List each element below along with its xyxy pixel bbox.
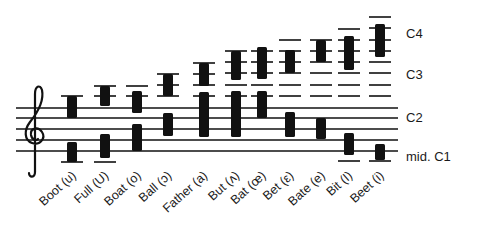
lower-range-bar <box>199 92 209 137</box>
lower-range-bar <box>231 91 241 137</box>
lower-range-bar <box>285 112 295 137</box>
vowel-pitch-diagram: C4C3C2mid. C1 Boot (u)Full (U)Boat (o)Ba… <box>0 0 477 247</box>
lower-range-bar <box>163 113 173 136</box>
lower-range-bar <box>132 124 142 151</box>
lower-range-bar <box>257 91 267 118</box>
pitch-label: mid. C1 <box>406 150 451 163</box>
upper-range-bar <box>257 47 267 79</box>
upper-range-bar <box>163 74 173 96</box>
lower-range-bar <box>316 118 326 139</box>
pitch-label: C3 <box>406 68 423 81</box>
upper-range-bar <box>132 91 142 113</box>
upper-range-bar <box>375 24 385 57</box>
lower-range-bar <box>67 142 77 162</box>
pitch-range-bars <box>67 24 385 162</box>
upper-range-bar <box>285 50 295 73</box>
upper-range-bar <box>316 40 326 62</box>
treble-clef-icon <box>26 87 44 177</box>
lower-range-bar <box>344 133 354 155</box>
upper-range-bar <box>344 36 354 70</box>
upper-range-bar <box>67 96 77 118</box>
upper-range-bar <box>231 51 241 80</box>
upper-range-bar <box>100 86 110 106</box>
upper-range-bar <box>199 63 209 86</box>
lower-range-bar <box>375 144 385 160</box>
pitch-label: C4 <box>406 27 423 40</box>
pitch-label: C2 <box>406 111 423 124</box>
lower-range-bar <box>100 134 110 158</box>
